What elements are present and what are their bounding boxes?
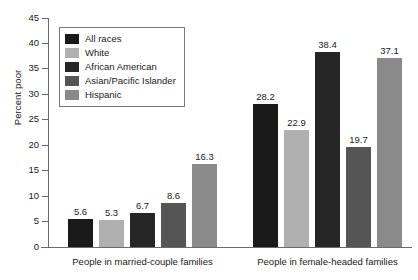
y-axis-tick-label: 35 <box>28 62 39 73</box>
y-axis-tick-label: 20 <box>28 139 39 150</box>
legend-swatch-icon <box>65 48 79 58</box>
x-axis-line <box>41 247 412 248</box>
legend-item: All races <box>65 32 176 46</box>
y-axis-tick-label: 5 <box>34 215 39 226</box>
bar: 37.1 <box>377 58 402 247</box>
legend-item: White <box>65 46 176 60</box>
bar: 19.7 <box>346 147 371 247</box>
legend-item-label: African American <box>85 62 157 72</box>
legend: All races White African American Asian/P… <box>59 27 185 107</box>
bar: 28.2 <box>253 104 278 248</box>
bar-value-label: 37.1 <box>380 45 399 56</box>
y-axis-tick-label: 25 <box>28 113 39 124</box>
bar-value-label: 28.2 <box>256 91 275 102</box>
bar-value-label: 19.7 <box>349 134 368 145</box>
y-axis-tick-label: 10 <box>28 190 39 201</box>
bar-chart: Percent poor 051015202530354045 5.65.36.… <box>0 0 418 280</box>
legend-item: Hispanic <box>65 88 176 102</box>
y-axis-tick-label: 45 <box>28 12 39 23</box>
legend-swatch-icon <box>65 34 79 44</box>
bar: 22.9 <box>284 130 309 247</box>
legend-item-label: Asian/Pacific Islander <box>85 76 176 86</box>
legend-item-label: White <box>85 48 109 58</box>
y-axis-tick-label: 40 <box>28 37 39 48</box>
y-axis-tick-label: 30 <box>28 88 39 99</box>
y-axis-tick-label: 15 <box>28 164 39 175</box>
legend-item: Asian/Pacific Islander <box>65 74 176 88</box>
bar-value-label: 22.9 <box>287 117 306 128</box>
y-axis-tick-label: 0 <box>34 241 39 252</box>
x-axis-category-label: People in female-headed families <box>228 256 418 267</box>
legend-swatch-icon <box>65 76 79 86</box>
legend-swatch-icon <box>65 62 79 72</box>
x-axis-category-label: People in married-couple families <box>43 256 243 267</box>
bar-value-label: 38.4 <box>318 39 337 50</box>
bar: 38.4 <box>315 52 340 247</box>
legend-item: African American <box>65 60 176 74</box>
legend-swatch-icon <box>65 90 79 100</box>
y-axis-title: Percent poor <box>12 43 23 153</box>
legend-item-label: Hispanic <box>85 90 121 100</box>
legend-item-label: All races <box>85 34 121 44</box>
